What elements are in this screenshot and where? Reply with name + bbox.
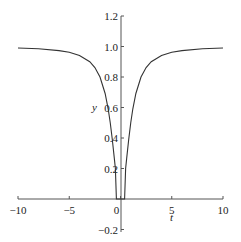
line-chart: −10−50510 −0.20.20.40.60.81.01.2 t y	[0, 0, 241, 242]
x-tick-label: 0	[114, 204, 120, 216]
axes: −10−50510 −0.20.20.40.60.81.01.2 t y	[9, 10, 229, 236]
y-axis-label: y	[91, 101, 97, 113]
x-tick-label: 10	[218, 204, 230, 216]
x-tick-label: −5	[63, 204, 75, 216]
y-tick-label: −0.2	[98, 224, 118, 236]
x-tick-label: −10	[9, 204, 27, 216]
y-tick-label: 1.2	[104, 10, 118, 22]
y-tick-label: 0.8	[104, 71, 118, 83]
y-tick-label: 1.0	[104, 41, 118, 53]
y-ticks: −0.20.20.40.60.81.01.2	[98, 10, 124, 236]
y-tick-label: 0.6	[104, 102, 118, 114]
